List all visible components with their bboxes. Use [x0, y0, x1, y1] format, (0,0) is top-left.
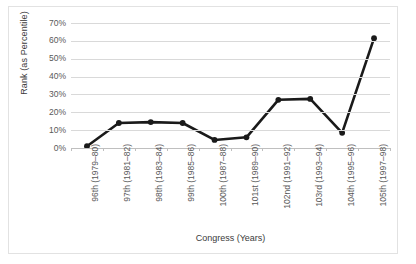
y-axis-tick-label: 0% [36, 144, 66, 153]
y-axis-tick-label: 60% [36, 36, 66, 45]
y-axis-tick-labels: 70%60%50%40%30%20%10%0% [36, 0, 66, 264]
y-axis-tick-label: 20% [36, 108, 66, 117]
y-axis-title: Rank (as Percentile) [19, 0, 29, 113]
x-axis-tick-label: 97th (1981–82) [122, 144, 132, 224]
x-axis-tick-label: 102nd (1991–92) [282, 144, 292, 224]
y-axis-tick-label: 40% [36, 72, 66, 81]
x-axis-tick-label: 100th (1987–88) [218, 144, 228, 224]
x-axis-tick-label: 103rd (1993–94) [314, 144, 324, 224]
x-axis-tick-label: 101st (1989–90) [250, 144, 260, 224]
y-axis-tick-label: 50% [36, 54, 66, 63]
x-axis-tick-label: 105th (1997–98) [378, 144, 388, 224]
x-axis-title: Congress (Years) [71, 233, 390, 243]
x-axis-tick-label: 104th (1995–96) [346, 144, 356, 224]
y-axis-tick-label: 10% [36, 126, 66, 135]
x-axis-tick-label: 96th (1979–80) [90, 144, 100, 224]
line-chart: Rank (as Percentile) 70%60%50%40%30%20%1… [0, 0, 416, 264]
x-axis-tick-labels: 96th (1979–80)97th (1981–82)98th (1983–8… [71, 150, 390, 230]
x-axis-tick-label: 98th (1983–84) [154, 144, 164, 224]
y-axis-tick-label: 30% [36, 90, 66, 99]
y-axis-tick-label: 70% [36, 19, 66, 28]
x-axis-tickmark [390, 148, 391, 151]
x-axis-tick-label: 99th (1985–86) [186, 144, 196, 224]
